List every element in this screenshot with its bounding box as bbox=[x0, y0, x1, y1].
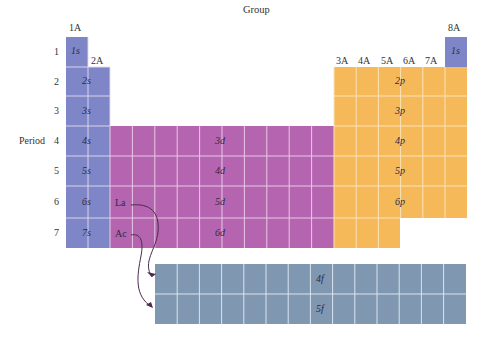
orbital-label-3s-text: 3s bbox=[82, 105, 91, 116]
lanthanum-marker: La bbox=[115, 197, 126, 208]
orbital-label-2p: 2p bbox=[395, 75, 405, 86]
orbital-label-6d-text: 6d bbox=[215, 227, 225, 238]
orbital-label-2s-text: 2s bbox=[82, 75, 91, 86]
orbital-label-6p: 6p bbox=[395, 196, 405, 207]
orbital-label-5f-text: 5f bbox=[316, 303, 324, 314]
orbital-label-4d-text: 4d bbox=[215, 165, 225, 176]
orbital-label-2p-text: 2p bbox=[395, 75, 405, 86]
orbital-label-4p-text: 4p bbox=[395, 135, 405, 146]
orbital-label-6s: 6s bbox=[82, 196, 91, 207]
orbital-label-6p-text: 6p bbox=[395, 196, 405, 207]
orbital-label-6d: 6d bbox=[215, 227, 225, 238]
orbital-label-3d: 3d bbox=[215, 135, 225, 146]
orbital-label-5p-text: 5p bbox=[395, 165, 405, 176]
orbital-label-1s-text: 1s bbox=[71, 45, 80, 56]
orbital-label-3p: 3p bbox=[395, 105, 405, 116]
orbital-label-1s: 1s bbox=[71, 45, 80, 56]
orbital-label-2s: 2s bbox=[82, 75, 91, 86]
orbital-label-5s: 5s bbox=[82, 165, 91, 176]
orbital-label-4d: 4d bbox=[215, 165, 225, 176]
orbital-label-4s: 4s bbox=[82, 135, 91, 146]
orbital-label-7s-text: 7s bbox=[82, 227, 91, 238]
orbital-label-5d: 5d bbox=[215, 196, 225, 207]
orbital-label-4f: 4f bbox=[316, 273, 324, 284]
lanthanide-arrowhead bbox=[147, 272, 156, 277]
orbital-label-7s: 7s bbox=[82, 227, 91, 238]
orbital-label-5s-text: 5s bbox=[82, 165, 91, 176]
orbital-label-5p: 5p bbox=[395, 165, 405, 176]
orbital-label-4s-text: 4s bbox=[82, 135, 91, 146]
orbital-label-4f-text: 4f bbox=[316, 273, 324, 284]
orbital-label-he-1s: 1s bbox=[451, 45, 460, 56]
orbital-label-3p-text: 3p bbox=[395, 105, 405, 116]
orbital-label-3d-text: 3d bbox=[215, 135, 225, 146]
orbital-label-5f: 5f bbox=[316, 303, 324, 314]
actinium-marker: Ac bbox=[115, 228, 127, 239]
orbital-label-3s: 3s bbox=[82, 105, 91, 116]
orbital-label-5d-text: 5d bbox=[215, 196, 225, 207]
orbital-label-6s-text: 6s bbox=[82, 196, 91, 207]
orbital-label-4p: 4p bbox=[395, 135, 405, 146]
lanthanide-arrow bbox=[131, 205, 158, 277]
orbital-label-he-1s-text: 1s bbox=[451, 45, 460, 56]
